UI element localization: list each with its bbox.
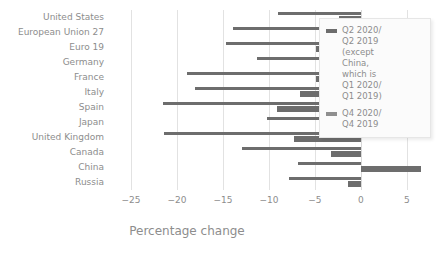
y-axis-label: Canada — [70, 147, 104, 158]
bar-q4 — [348, 181, 361, 187]
y-axis-label: Germany — [63, 57, 104, 68]
x-axis-tick-label: −25 — [121, 195, 140, 205]
chart-root: United StatesEuropean Union 27Euro 19Ger… — [0, 0, 439, 256]
bar-q2 — [278, 12, 361, 15]
x-axis-tick-label: 0 — [358, 195, 364, 205]
y-axis-label: Russia — [75, 177, 104, 188]
x-axis-ticks: −25−20−15−10−505 — [108, 192, 439, 208]
bar-q2 — [289, 177, 361, 180]
chart-legend: Q2 2020/ Q2 2019 (except China, which is… — [319, 18, 431, 138]
y-axis-label: European Union 27 — [18, 27, 104, 38]
y-axis-label: Euro 19 — [69, 42, 104, 53]
legend-label: Q2 2020/ Q2 2019 (except China, which is… — [342, 25, 382, 102]
x-axis-tick-label: −20 — [167, 195, 186, 205]
x-axis-tick-label: −10 — [259, 195, 278, 205]
x-axis-tick-label: −5 — [308, 195, 321, 205]
y-axis-label: China — [78, 162, 104, 173]
legend-entry-q2[interactable]: Q2 2020/ Q2 2019 (except China, which is… — [326, 25, 424, 102]
chart-row — [108, 160, 439, 175]
bar-q4 — [331, 151, 360, 157]
chart-row — [108, 175, 439, 190]
y-axis-label: United States — [43, 12, 104, 23]
y-axis-label: Italy — [84, 87, 104, 98]
y-axis-label: Japan — [79, 117, 104, 128]
x-axis-tick-label: −15 — [213, 195, 232, 205]
bar-q2 — [242, 147, 361, 150]
y-axis-labels: United StatesEuropean Union 27Euro 19Ger… — [0, 10, 104, 190]
legend-swatch-icon — [326, 112, 337, 116]
x-axis-tick-label: 5 — [404, 195, 410, 205]
y-axis-label: Spain — [79, 102, 104, 113]
x-axis-title-label: Percentage change — [129, 224, 244, 238]
bar-q2 — [298, 162, 361, 165]
chart-row — [108, 145, 439, 160]
legend-entry-q4[interactable]: Q4 2020/ Q4 2019 — [326, 108, 424, 130]
legend-label: Q4 2020/ Q4 2019 — [342, 108, 381, 130]
legend-swatch-icon — [326, 29, 337, 33]
x-axis-title: Percentage change — [0, 224, 439, 238]
y-axis-label: United Kingdom — [32, 132, 104, 143]
y-axis-label: France — [74, 72, 104, 83]
bar-q4 — [361, 166, 421, 172]
